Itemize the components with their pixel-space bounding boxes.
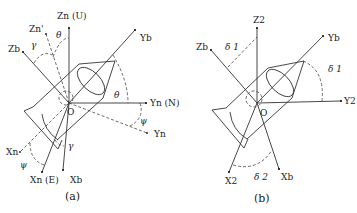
label-delta1-top: δ 1: [225, 42, 239, 52]
rocket-body-b: [212, 61, 304, 148]
rocket-body-a: [24, 61, 115, 149]
label-yn-n: Yn (N): [149, 98, 180, 108]
label-xn-e: Xn (E): [30, 175, 59, 185]
label-gamma-top: γ: [31, 40, 37, 50]
label-xb-b: Xb: [281, 172, 293, 182]
label-origin-b: O: [260, 108, 267, 118]
caption-b: (b): [254, 192, 270, 205]
label-origin-a: O: [67, 107, 74, 117]
label-delta1-right: δ 1: [328, 64, 342, 74]
label-gamma-bottom: γ: [68, 141, 74, 151]
label-yn: Yn: [153, 129, 166, 139]
panel-a: Zn (U) Zn' Zb Yb Yn (N) Yn Xn Xn (E) Xb …: [6, 11, 180, 203]
caption-a: (a): [65, 190, 80, 203]
label-yb-a: Yb: [139, 33, 152, 43]
label-theta-top: θ: [56, 30, 62, 40]
label-zn-u: Zn (U): [57, 11, 87, 21]
label-psi-right: ψ: [140, 116, 148, 126]
label-y2: Y2: [343, 96, 356, 106]
label-x2: X2: [225, 176, 237, 186]
label-xn: Xn: [6, 147, 18, 157]
label-psi-left: ψ: [20, 160, 28, 170]
axis-y2: [257, 101, 341, 103]
label-zn-prime: Zn': [29, 24, 44, 34]
axis-zn-prime: [46, 34, 69, 103]
label-delta2-bottom: δ 2: [254, 172, 268, 182]
label-theta-right: θ: [114, 90, 120, 100]
label-zb-b: Zb: [196, 42, 208, 52]
label-yb-b: Yb: [327, 33, 340, 43]
panel-b: Z2 Zb Yb Y2 X2 Xb O δ 1 δ 1 δ 2 (b): [196, 15, 356, 205]
axis-zb-b: [211, 50, 257, 103]
label-xb-a: Xb: [70, 175, 82, 185]
axis-x2: [229, 103, 257, 172]
label-z2: Z2: [253, 15, 265, 25]
axis-yb-a: [69, 30, 135, 103]
axis-xn-rotated: [20, 103, 69, 152]
label-zb-a: Zb: [8, 44, 20, 54]
axis-xn-e: [42, 103, 69, 172]
coordinate-frames-figure: Zn (U) Zn' Zb Yb Yn (N) Yn Xn Xn (E) Xb …: [0, 0, 357, 213]
